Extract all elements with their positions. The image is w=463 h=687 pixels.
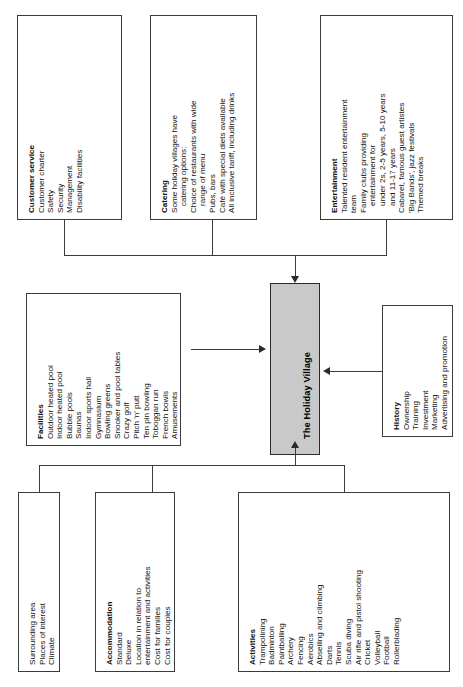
list-item: Darts bbox=[325, 570, 335, 665]
list-item: Outdoor heated pool bbox=[46, 352, 56, 439]
activities-text: Activities Trampolining Badminton Paintb… bbox=[248, 570, 402, 665]
center-label: The Holiday Village bbox=[302, 352, 312, 439]
list-item: Standard bbox=[115, 566, 125, 665]
list-item: Table tennis bbox=[180, 352, 181, 439]
list-item: Marketing bbox=[430, 336, 440, 430]
connector-bottom-bus bbox=[39, 465, 344, 466]
list-item: Climate bbox=[47, 602, 57, 665]
node-center-holiday-village[interactable]: The Holiday Village bbox=[270, 283, 320, 455]
list-item: Café with special diets available bbox=[218, 93, 228, 213]
list-item: Football bbox=[382, 570, 392, 665]
node-activities[interactable]: Activities Trampolining Badminton Paintb… bbox=[238, 492, 450, 672]
list-item: entertainment and activities bbox=[143, 566, 153, 665]
connector-entertainment-stub bbox=[386, 220, 387, 255]
history-text: History Ownership Training Investment Ma… bbox=[392, 336, 450, 430]
list-item: Management bbox=[65, 145, 75, 213]
list-item: Toboggan run bbox=[151, 352, 161, 439]
list-item: and 11-17 years bbox=[388, 94, 398, 213]
connector-history-to-center bbox=[330, 371, 382, 372]
list-item: Tennis bbox=[334, 570, 344, 665]
list-item: Ownership bbox=[402, 336, 412, 430]
list-item: Advertising and promotion bbox=[440, 336, 450, 430]
list-item: Indoor sports hall bbox=[84, 352, 94, 439]
list-item: Customer charter bbox=[37, 145, 47, 213]
list-item: Bowling greens bbox=[103, 352, 113, 439]
list-item: Location in relation to bbox=[134, 566, 144, 665]
connector-catering-stub bbox=[212, 220, 213, 255]
catering-text: Catering Some holiday villages have cate… bbox=[160, 93, 237, 213]
list-item: Cost for couples bbox=[163, 566, 173, 665]
list-item: under 2s, 2-5 years, 5-10 years bbox=[378, 94, 388, 213]
diagram-canvas: Customer service Customer charter Safety… bbox=[0, 0, 463, 687]
list-item: Trampolining bbox=[258, 570, 268, 665]
history-heading: History bbox=[392, 336, 402, 430]
node-history[interactable]: History Ownership Training Investment Ma… bbox=[382, 305, 453, 437]
node-entertainment[interactable]: Entertainment Talented resident entertai… bbox=[320, 15, 453, 220]
list-item: range of menu bbox=[198, 93, 208, 213]
list-item: Investment bbox=[421, 336, 431, 430]
facilities-heading: Facilities bbox=[36, 352, 46, 439]
list-item: Security bbox=[56, 145, 66, 213]
list-item: Cricket bbox=[363, 570, 373, 665]
catering-heading: Catering bbox=[160, 93, 170, 213]
list-item: Some holiday villages have bbox=[170, 93, 180, 213]
arrow-top-into-center bbox=[291, 276, 299, 283]
list-item: All inclusive tariff, including drinks bbox=[227, 93, 237, 213]
entertainment-heading: Entertainment bbox=[330, 94, 340, 213]
list-item: Indoor heated pool bbox=[55, 352, 65, 439]
entertainment-text: Entertainment Talented resident entertai… bbox=[330, 94, 426, 213]
list-item: Family clubs providing bbox=[359, 94, 369, 213]
list-item: Themed breaks bbox=[416, 94, 426, 213]
connector-top-bus bbox=[64, 255, 387, 256]
list-item: Disability facilities bbox=[75, 145, 85, 213]
location-text: Surrounding area Places of interest Clim… bbox=[28, 602, 57, 665]
list-item: Archery bbox=[286, 570, 296, 665]
list-item: Crazy golf bbox=[122, 352, 132, 439]
list-item: Fencing bbox=[296, 570, 306, 665]
list-item: Snooker and pool tables bbox=[113, 352, 123, 439]
list-item: Rollerblading bbox=[392, 570, 402, 665]
accommodation-heading: Accommodation bbox=[105, 566, 115, 665]
list-item: Cost for singles bbox=[172, 566, 175, 665]
activities-heading: Activities bbox=[248, 570, 258, 665]
list-item: Badminton bbox=[267, 570, 277, 665]
arrow-facilities-into-center bbox=[259, 345, 266, 353]
facilities-text: Facilities Outdoor heated pool Indoor he… bbox=[36, 352, 181, 439]
list-item: Choice of restaurants with wide bbox=[189, 93, 199, 213]
list-item: Amusements bbox=[170, 352, 180, 439]
node-catering[interactable]: Catering Some holiday villages have cate… bbox=[150, 15, 257, 220]
list-item: Pitch 'n' putt bbox=[132, 352, 142, 439]
list-item: Volleyball bbox=[373, 570, 383, 665]
list-item: Bubble pools bbox=[65, 352, 75, 439]
customer-service-heading: Customer service bbox=[27, 145, 37, 213]
arrow-bottom-into-center bbox=[291, 441, 299, 448]
connector-customer-service-stub bbox=[64, 220, 65, 255]
list-item: entertainment for bbox=[368, 94, 378, 213]
connector-accommodation-stub bbox=[152, 465, 153, 492]
connector-bottom-to-center bbox=[295, 448, 296, 465]
accommodation-text: Accommodation Standard Deluxe Location i… bbox=[105, 566, 175, 665]
list-item: Talented resident entertainment bbox=[340, 94, 350, 213]
node-accommodation[interactable]: Accommodation Standard Deluxe Location i… bbox=[95, 492, 175, 672]
connector-facilities-to-center bbox=[191, 349, 259, 350]
arrow-history-into-center bbox=[323, 367, 330, 375]
list-item: French bowls bbox=[161, 352, 171, 439]
list-item: Deluxe bbox=[124, 566, 134, 665]
list-item: Scuba diving bbox=[344, 570, 354, 665]
node-facilities[interactable]: Facilities Outdoor heated pool Indoor he… bbox=[26, 293, 181, 446]
list-item: Places of interest bbox=[38, 602, 48, 665]
list-item: Cost for families bbox=[153, 566, 163, 665]
list-item: catering options: bbox=[179, 93, 189, 213]
list-item: Saunas bbox=[74, 352, 84, 439]
list-item: Air rifle and pistol shooting bbox=[354, 570, 364, 665]
list-item: team bbox=[349, 94, 359, 213]
connector-location-stub bbox=[39, 465, 40, 492]
list-item: Abseiling and climbing bbox=[315, 570, 325, 665]
list-item: Training bbox=[411, 336, 421, 430]
node-location[interactable]: Surrounding area Places of interest Clim… bbox=[18, 492, 60, 672]
list-item: Cabaret, famous guest artistes bbox=[397, 94, 407, 213]
customer-service-text: Customer service Customer charter Safety… bbox=[27, 145, 85, 213]
list-item: Ten pin bowling bbox=[142, 352, 152, 439]
node-customer-service[interactable]: Customer service Customer charter Safety… bbox=[17, 15, 122, 220]
list-item: Gymnasium bbox=[94, 352, 104, 439]
